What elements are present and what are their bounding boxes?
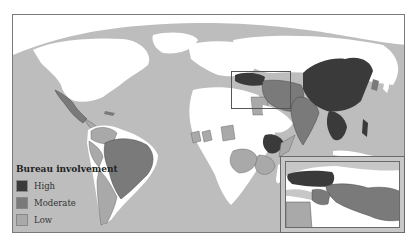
middle-east-inset (280, 156, 405, 233)
legend-item-high: High (16, 177, 108, 194)
legend-label-low: Low (34, 215, 52, 225)
legend-title: Bureau involvement (16, 164, 108, 174)
country-ghana[interactable] (191, 131, 201, 143)
legend-swatch-low (16, 214, 28, 226)
legend-swatch-high (16, 180, 28, 192)
legend: Bureau involvement High Moderate Low (16, 164, 108, 228)
legend-item-moderate: Moderate (16, 194, 108, 211)
inset-map-area (285, 161, 400, 228)
inset-highlight-box (231, 71, 291, 109)
legend-item-low: Low (16, 211, 108, 228)
legend-label-moderate: Moderate (34, 198, 76, 208)
country-nigeria[interactable] (221, 125, 235, 141)
legend-label-high: High (34, 181, 55, 191)
inset-map (286, 162, 400, 228)
country-ivory-coast[interactable] (202, 130, 212, 142)
legend-swatch-moderate (16, 197, 28, 209)
inset-egypt[interactable] (286, 202, 312, 228)
